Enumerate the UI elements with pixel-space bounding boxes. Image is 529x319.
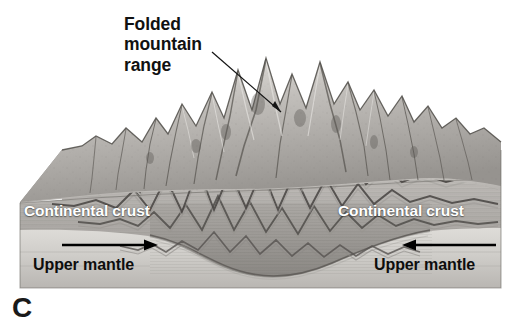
callout-folded-mountain-range: Folded mountain range — [124, 14, 202, 75]
panel-letter-label: C — [12, 292, 32, 319]
label-continental-crust-right: Continental crust — [338, 202, 464, 220]
figure-panel-c: Folded mountain range Continental crust … — [0, 0, 529, 319]
label-continental-crust-left: Continental crust — [24, 202, 150, 220]
label-upper-mantle-left: Upper mantle — [33, 256, 134, 275]
label-upper-mantle-right: Upper mantle — [374, 256, 475, 275]
